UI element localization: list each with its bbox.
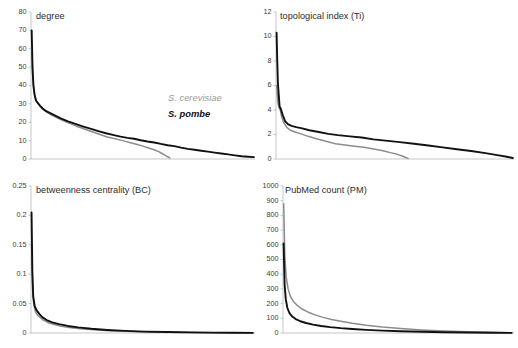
y-tick-label: 12	[264, 7, 272, 16]
y-tick-label: 50	[19, 62, 27, 71]
y-tick-label: 0	[23, 154, 27, 163]
y-tick-label: 0.15	[13, 240, 27, 249]
panel-pubmed-count-axes: 01002003004005006007008009001000	[263, 181, 515, 337]
panel-betweenness-centrality-axes: 00.050.10.150.20.25	[13, 181, 256, 337]
panel-topological-index-svg: 024681012 topological index (Ti)	[259, 0, 518, 174]
panel-degree-svg: 01020304050607080 degree S. cerevisiae S…	[0, 0, 259, 174]
series-line-cerevisiae	[277, 86, 408, 159]
y-tick-label: 500	[267, 254, 279, 263]
y-tick-label: 2	[268, 129, 272, 138]
series-line-pombe	[277, 33, 513, 158]
y-tick-label: 800	[267, 210, 279, 219]
panel-topological-index-axes: 024681012	[264, 7, 515, 163]
panel-betweenness-centrality: 00.050.10.150.20.25 betweenness centrali…	[0, 174, 259, 348]
panel-topological-index-title: topological index (Ti)	[280, 11, 364, 21]
panel-pubmed-count-svg: 01002003004005006007008009001000 PubMed …	[259, 174, 518, 348]
y-tick-label: 20	[19, 117, 27, 126]
legend: S. cerevisiae S. pombe	[168, 92, 222, 119]
y-tick-label: 8	[268, 56, 272, 65]
panel-topological-index-series	[277, 33, 513, 159]
y-tick-label: 4	[268, 105, 272, 114]
y-tick-label: 400	[267, 269, 279, 278]
y-tick-label: 0.2	[17, 210, 27, 219]
y-tick-label: 30	[19, 99, 27, 108]
legend-item-cerevisiae: S. cerevisiae	[168, 92, 222, 103]
series-line-pombe	[32, 212, 253, 332]
y-tick-label: 100	[267, 313, 279, 322]
legend-item-pombe: S. pombe	[168, 108, 210, 119]
y-tick-label: 700	[267, 225, 279, 234]
series-line-cerevisiae	[32, 245, 253, 333]
y-tick-label: 10	[264, 31, 272, 40]
panel-betweenness-centrality-series	[32, 212, 253, 332]
series-line-cerevisiae	[284, 204, 512, 333]
y-tick-label: 6	[268, 80, 272, 89]
y-tick-label: 40	[19, 80, 27, 89]
panel-pubmed-count: 01002003004005006007008009001000 PubMed …	[259, 174, 518, 348]
panel-degree-title: degree	[36, 11, 65, 21]
panel-degree: 01020304050607080 degree S. cerevisiae S…	[0, 0, 259, 174]
y-tick-label: 0.05	[13, 299, 27, 308]
y-tick-label: 200	[267, 299, 279, 308]
panel-pubmed-count-title: PubMed count (PM)	[285, 185, 367, 195]
y-tick-label: 300	[267, 284, 279, 293]
y-tick-label: 0	[268, 154, 272, 163]
series-line-pombe	[284, 243, 512, 333]
y-tick-label: 0	[275, 328, 279, 337]
panel-betweenness-centrality-svg: 00.050.10.150.20.25 betweenness centrali…	[0, 174, 259, 348]
y-tick-label: 10	[19, 136, 27, 145]
y-tick-label: 600	[267, 240, 279, 249]
panel-topological-index: 024681012 topological index (Ti)	[259, 0, 518, 174]
panel-pubmed-count-series	[284, 204, 512, 333]
y-tick-label: 0	[23, 328, 27, 337]
y-tick-label: 80	[19, 7, 27, 16]
y-tick-label: 900	[267, 196, 279, 205]
y-tick-label: 60	[19, 44, 27, 53]
multi-panel-figure: 01020304050607080 degree S. cerevisiae S…	[0, 0, 518, 348]
y-tick-label: 70	[19, 25, 27, 34]
y-tick-label: 0.1	[17, 269, 27, 278]
y-tick-label: 0.25	[13, 181, 27, 190]
y-tick-label: 1000	[263, 181, 279, 190]
panel-betweenness-centrality-title: betweenness centrality (BC)	[36, 185, 151, 195]
